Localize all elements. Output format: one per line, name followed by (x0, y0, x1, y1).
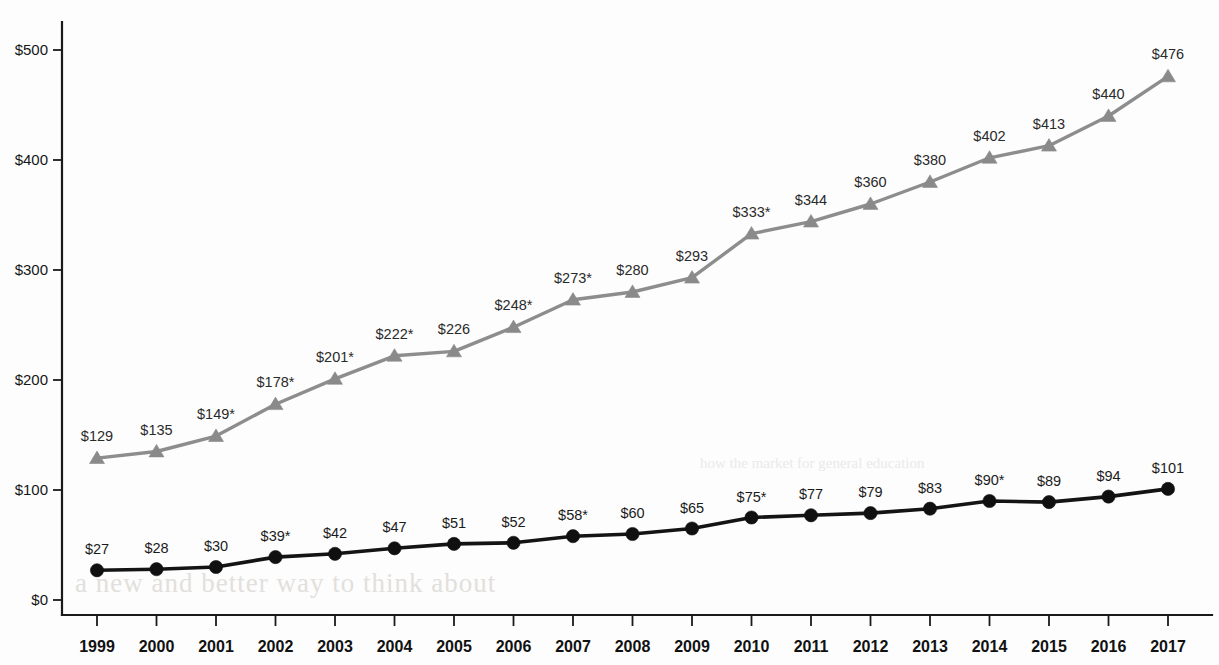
data-point-marker-circle[interactable] (1161, 482, 1174, 495)
x-tick-label: 2014 (972, 638, 1008, 655)
data-point-marker-circle[interactable] (923, 502, 936, 515)
data-point-marker-circle[interactable] (745, 511, 758, 524)
data-point-label: $380 (914, 152, 946, 168)
data-point-label: $79 (858, 484, 882, 500)
x-tick-label: 2006 (496, 638, 532, 655)
data-point-marker-circle[interactable] (685, 522, 698, 535)
y-tick-label: $400 (15, 151, 48, 168)
data-point-label: $52 (501, 514, 525, 530)
x-axis-ticks: 1999200020012002200320042005200620072008… (79, 615, 1186, 655)
data-point-label: $333* (733, 204, 771, 220)
data-point-label: $47 (382, 519, 406, 535)
data-point-marker-circle[interactable] (150, 563, 163, 576)
y-tick-label: $100 (15, 481, 48, 498)
x-tick-label: 2000 (139, 638, 175, 655)
x-tick-label: 2002 (258, 638, 294, 655)
data-point-label: $51 (442, 515, 466, 531)
background-bleed-artifacts: a new and better way to think about how … (75, 455, 925, 598)
line-chart: a new and better way to think about how … (0, 0, 1219, 665)
data-point-label: $293 (676, 248, 708, 264)
data-point-label: $77 (799, 486, 823, 502)
bleed-line-2: how the market for general education (700, 455, 925, 471)
bleed-line-1: a new and better way to think about (75, 568, 496, 598)
x-tick-label: 2012 (853, 638, 889, 655)
data-point-label: $178* (257, 374, 295, 390)
y-tick-label: $300 (15, 261, 48, 278)
data-point-marker-circle[interactable] (328, 547, 341, 560)
data-point-label: $27 (85, 541, 109, 557)
x-tick-label: 2005 (436, 638, 472, 655)
x-tick-label: 1999 (79, 638, 115, 655)
data-point-marker-circle[interactable] (507, 536, 520, 549)
x-tick-label: 2007 (555, 638, 591, 655)
data-label-layer: $129$135$149*$178*$201*$222*$226$248*$27… (81, 46, 1184, 557)
data-point-marker-circle[interactable] (804, 509, 817, 522)
x-tick-label: 2013 (912, 638, 948, 655)
data-point-label: $101 (1152, 460, 1184, 476)
data-point-label: $58* (558, 507, 588, 523)
data-point-label: $94 (1096, 468, 1120, 484)
data-point-label: $201* (316, 349, 354, 365)
data-point-label: $129 (81, 428, 113, 444)
data-point-marker-triangle[interactable] (1161, 69, 1176, 82)
data-point-marker-circle[interactable] (388, 542, 401, 555)
x-tick-label: 2017 (1150, 638, 1186, 655)
data-point-label: $149* (197, 406, 235, 422)
chart-container: a new and better way to think about how … (0, 0, 1219, 665)
data-point-label: $440 (1092, 86, 1124, 102)
data-point-label: $280 (616, 262, 648, 278)
y-tick-label: $200 (15, 371, 48, 388)
data-point-marker-circle[interactable] (1042, 496, 1055, 509)
data-point-label: $39* (261, 528, 291, 544)
data-point-marker-circle[interactable] (1102, 490, 1115, 503)
series-layer (90, 69, 1176, 577)
data-point-label: $30 (204, 538, 228, 554)
data-point-marker-circle[interactable] (864, 506, 877, 519)
data-point-label: $402 (973, 128, 1005, 144)
y-tick-label: $500 (15, 41, 48, 58)
data-point-label: $28 (144, 540, 168, 556)
data-point-label: $42 (323, 525, 347, 541)
data-point-label: $90* (975, 472, 1005, 488)
x-tick-label: 2016 (1091, 638, 1127, 655)
data-point-label: $60 (620, 505, 644, 521)
data-point-marker-circle[interactable] (626, 527, 639, 540)
axes (62, 22, 1212, 615)
data-point-label: $344 (795, 192, 827, 208)
data-point-marker-circle[interactable] (447, 537, 460, 550)
data-point-label: $413 (1033, 116, 1065, 132)
data-point-marker-circle[interactable] (983, 494, 996, 507)
x-tick-label: 2001 (198, 638, 234, 655)
data-point-label: $273* (554, 270, 592, 286)
data-point-label: $65 (680, 500, 704, 516)
data-point-marker-circle[interactable] (566, 530, 579, 543)
x-tick-label: 2010 (734, 638, 770, 655)
x-tick-label: 2015 (1031, 638, 1067, 655)
data-point-marker-circle[interactable] (269, 551, 282, 564)
x-tick-label: 2009 (674, 638, 710, 655)
data-point-marker-circle[interactable] (90, 564, 103, 577)
x-tick-label: 2004 (377, 638, 413, 655)
data-point-label: $89 (1037, 473, 1061, 489)
y-tick-label: $0 (31, 591, 48, 608)
x-tick-label: 2011 (794, 638, 829, 655)
data-point-marker-triangle[interactable] (209, 429, 224, 442)
data-point-label: $135 (140, 422, 172, 438)
x-tick-label: 2008 (615, 638, 651, 655)
data-point-label: $248* (495, 297, 533, 313)
data-point-label: $75* (737, 489, 767, 505)
data-point-label: $476 (1152, 46, 1184, 62)
data-point-label: $222* (376, 326, 414, 342)
x-tick-label: 2003 (317, 638, 353, 655)
data-point-label: $226 (438, 321, 470, 337)
y-axis-ticks: $0$100$200$300$400$500 (15, 41, 62, 608)
data-point-label: $83 (918, 480, 942, 496)
data-point-marker-circle[interactable] (209, 560, 222, 573)
data-point-label: $360 (854, 174, 886, 190)
